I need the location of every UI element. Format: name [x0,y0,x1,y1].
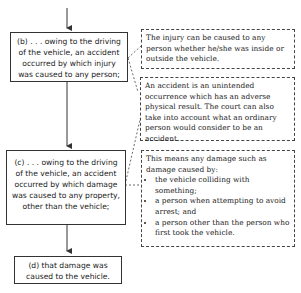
step-b-text: (b) . . . owing to the driving of the ve… [17,37,121,79]
step-c-text: (c) . . . owing to the driving of the ve… [12,158,120,211]
list-item: a person other than the person who first… [155,218,290,239]
note-accident: An accident is an unintended occurrence … [140,77,295,141]
list-item: the vehicle colliding with something; [155,175,290,196]
step-b-box: (b) . . . owing to the driving of the ve… [10,32,128,82]
step-d-text: (d) that damage was caused to the vehicl… [26,261,110,281]
step-d-box: (d) that damage was caused to the vehicl… [14,256,122,284]
note-damage-intro: This means any damage such as damage cau… [146,154,290,175]
list-item: a person when attempting to avoid arrest… [155,196,290,217]
note-damage: This means any damage such as damage cau… [141,150,295,247]
note-injury: The injury can be caused to any person w… [141,29,295,69]
note-damage-list: the vehicle colliding with something; a … [146,175,290,239]
step-c-box: (c) . . . owing to the driving of the ve… [6,150,126,225]
